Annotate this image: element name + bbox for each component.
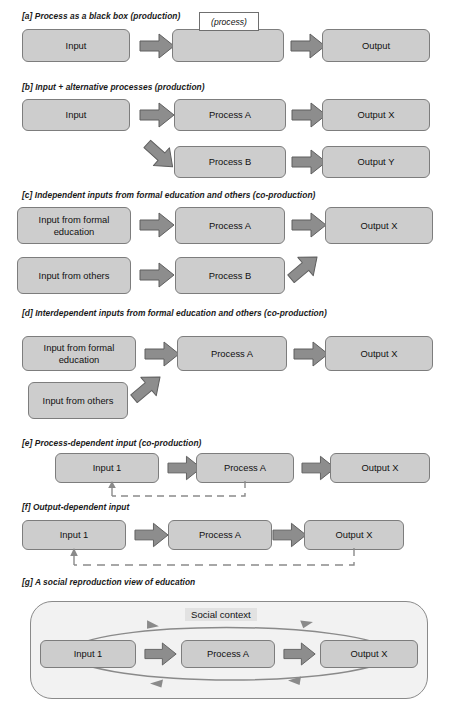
node-b-input: Input bbox=[22, 99, 130, 131]
node-label: Input 1 bbox=[60, 529, 89, 540]
caption-e: [e] Process-dependent input (co-producti… bbox=[22, 438, 201, 448]
node-a-input: Input bbox=[22, 29, 130, 62]
node-label: Process A bbox=[199, 529, 241, 540]
caption-c: [c] Independent inputs from formal educa… bbox=[22, 190, 315, 200]
arrow-d-3-diagonal bbox=[131, 372, 173, 412]
node-a-output: Output bbox=[322, 29, 430, 62]
arrow-f-2 bbox=[272, 522, 308, 548]
node-label: Input from formal education bbox=[21, 214, 127, 236]
node-c-process-a: Process A bbox=[175, 207, 285, 244]
node-c-output-x: Output X bbox=[325, 207, 433, 244]
arrow-d-1 bbox=[144, 341, 181, 367]
node-e-output-x: Output X bbox=[330, 453, 430, 483]
node-label: Output Y bbox=[358, 156, 395, 167]
node-d-process-a: Process A bbox=[177, 336, 287, 371]
node-label: Process A bbox=[207, 648, 249, 659]
node-label: Process A bbox=[224, 462, 266, 473]
node-d-input-others: Input from others bbox=[28, 382, 128, 419]
arrow-g-2 bbox=[283, 642, 317, 666]
node-c-process-b: Process B bbox=[175, 257, 285, 294]
node-label: Input bbox=[66, 40, 87, 51]
caption-g: [g] A social reproduction view of educat… bbox=[22, 577, 195, 587]
social-context-label: Social context bbox=[185, 608, 257, 621]
node-label: Input 1 bbox=[74, 648, 103, 659]
node-label: Output X bbox=[357, 109, 394, 120]
node-label: Process B bbox=[209, 270, 252, 281]
node-label: Output X bbox=[360, 220, 397, 231]
arrow-c-1 bbox=[139, 212, 176, 238]
node-label: Input from others bbox=[39, 270, 110, 281]
node-label: Input from formal education bbox=[26, 342, 132, 364]
node-f-output-x: Output X bbox=[304, 520, 404, 550]
caption-f: [f] Output-dependent input bbox=[22, 502, 129, 512]
node-b-output-y: Output Y bbox=[322, 146, 430, 178]
node-f-process-a: Process A bbox=[168, 520, 272, 550]
feedback-line-e bbox=[100, 481, 260, 503]
node-f-input-1: Input 1 bbox=[22, 520, 126, 550]
node-label: Input 1 bbox=[93, 462, 122, 473]
feedback-line-f bbox=[60, 548, 370, 572]
node-b-process-b: Process B bbox=[174, 146, 286, 178]
figure-root: [a] Process as a black box (production) … bbox=[0, 0, 450, 727]
arrow-a-1 bbox=[139, 33, 176, 59]
node-label: Process B bbox=[209, 156, 252, 167]
node-label: Input bbox=[66, 109, 87, 120]
node-e-process-a: Process A bbox=[196, 453, 294, 483]
node-label: Process A bbox=[209, 109, 251, 120]
arrow-f-1 bbox=[134, 522, 170, 548]
node-b-output-x: Output X bbox=[322, 99, 430, 131]
node-label: Output X bbox=[360, 348, 397, 359]
caption-a: [a] Process as a black box (production) bbox=[22, 11, 180, 21]
process-tag-a: (process) bbox=[199, 12, 259, 31]
arrow-c-4-diagonal bbox=[288, 252, 330, 292]
node-c-input-others: Input from others bbox=[17, 257, 131, 294]
node-label: Output X bbox=[350, 648, 387, 659]
node-label: Output X bbox=[361, 462, 398, 473]
node-d-output-x: Output X bbox=[325, 336, 433, 371]
node-label: Input from others bbox=[43, 395, 114, 406]
node-e-input-1: Input 1 bbox=[55, 453, 159, 483]
node-d-input-formal: Input from formal education bbox=[22, 336, 136, 371]
node-g-input-1: Input 1 bbox=[40, 640, 136, 668]
node-b-process-a: Process A bbox=[174, 99, 286, 131]
node-label: Process A bbox=[211, 348, 253, 359]
arrow-c-2 bbox=[291, 212, 328, 238]
node-c-input-formal: Input from formal education bbox=[17, 207, 131, 244]
caption-d: [d] Interdependent inputs from formal ed… bbox=[22, 308, 327, 318]
process-tag-label: (process) bbox=[211, 17, 247, 27]
arrow-b-3-diagonal bbox=[139, 142, 179, 180]
node-g-output-x: Output X bbox=[320, 640, 418, 668]
social-context-label-text: Social context bbox=[191, 609, 251, 620]
node-label: Output X bbox=[335, 529, 372, 540]
caption-b: [b] Input + alternative processes (produ… bbox=[22, 82, 205, 92]
node-a-process bbox=[172, 29, 284, 62]
arrow-b-1 bbox=[139, 102, 176, 128]
node-label: Output bbox=[362, 40, 390, 51]
node-label: Process A bbox=[209, 220, 251, 231]
arrow-g-1 bbox=[144, 642, 178, 666]
node-g-process-a: Process A bbox=[181, 640, 275, 668]
arrow-c-3 bbox=[139, 262, 176, 288]
